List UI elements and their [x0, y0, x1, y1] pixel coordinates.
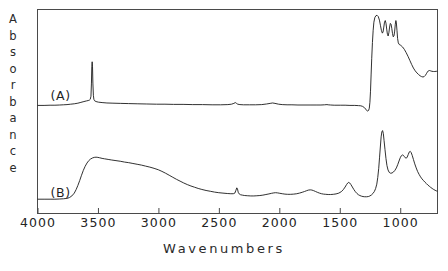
y-axis-label-char: s [10, 47, 16, 59]
y-axis-label-char: o [9, 64, 16, 76]
x-tick-label: 3000 [141, 215, 177, 230]
x-tick-label: 1000 [383, 215, 419, 230]
y-axis-label-char: e [9, 163, 16, 175]
trace-label-a: (A) [51, 88, 71, 103]
plot-frame [38, 10, 438, 214]
x-tick-label: 2500 [201, 215, 237, 230]
spectra-svg [37, 9, 438, 214]
x-tick-label: 4000 [20, 215, 56, 230]
y-axis-label-char: n [9, 130, 16, 142]
x-tick-labels: 4000350030002500200015001000 [37, 215, 438, 235]
x-tick-label: 3500 [80, 215, 116, 230]
trace-label-b: (B) [51, 185, 71, 200]
x-tick-label: 1500 [322, 215, 358, 230]
y-axis-label-char: a [9, 113, 16, 125]
y-axis-label-char: b [9, 97, 16, 109]
plot-area: (A) (B) [37, 9, 438, 214]
y-axis-label-char: c [10, 146, 16, 158]
x-tick-label: 2000 [262, 215, 298, 230]
y-axis-label: Absorbance [2, 14, 24, 179]
y-axis-label-char: b [9, 31, 16, 43]
x-axis-label: Wavenumbers [0, 241, 448, 256]
y-axis-label-char: r [11, 80, 16, 92]
ftir-spectra-figure: Absorbance (A) (B) 400035003000250020001… [0, 0, 448, 271]
y-axis-label-char: A [9, 14, 17, 26]
